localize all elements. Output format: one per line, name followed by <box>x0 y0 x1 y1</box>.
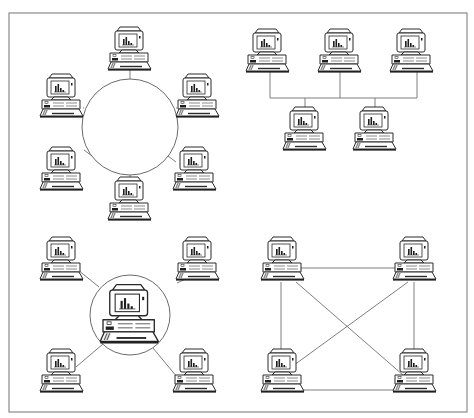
desktop-computer-icon <box>108 177 151 221</box>
desktop-computer-icon <box>40 237 83 281</box>
desktop-computer-icon <box>318 29 361 73</box>
desktop-computer-icon <box>393 237 436 281</box>
desktop-computer-icon <box>283 107 326 151</box>
desktop-computer-icon <box>40 74 83 118</box>
mesh-topology <box>261 237 436 393</box>
desktop-computer-icon <box>108 27 151 71</box>
desktop-computer-icon <box>40 349 83 393</box>
desktop-computer-icon <box>261 349 304 393</box>
desktop-computer-icon <box>390 29 433 73</box>
network-topologies-figure <box>0 0 474 418</box>
mesh-link <box>296 282 403 375</box>
desktop-computer-icon <box>246 29 289 73</box>
star-link <box>76 344 103 367</box>
desktop-computer-icon <box>393 349 436 393</box>
desktop-computer-icon <box>261 237 304 281</box>
ring-link <box>168 156 176 162</box>
mesh-link <box>290 282 408 368</box>
desktop-computer-icon <box>176 237 219 281</box>
bus-topology <box>246 29 433 151</box>
desktop-computer-icon <box>40 147 83 191</box>
desktop-computer-icon <box>176 74 219 118</box>
topology-diagram-canvas <box>0 0 474 418</box>
ring-cable <box>82 79 178 175</box>
star-link <box>153 348 177 377</box>
figure-frame <box>9 13 467 412</box>
desktop-computer-icon <box>353 107 396 151</box>
desktop-computer-icon <box>173 349 216 393</box>
desktop-computer-icon <box>173 147 216 191</box>
star-topology <box>40 237 219 393</box>
